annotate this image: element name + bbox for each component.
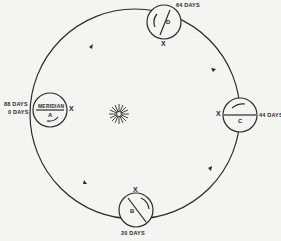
marker-x-d: X	[161, 40, 166, 47]
label-c-days: 44 DAYS	[259, 112, 281, 118]
sun-icon	[109, 104, 129, 124]
label-d-days: 64 DAYS	[176, 2, 200, 8]
marker-x-c: X	[216, 110, 221, 117]
letter-c: C	[238, 118, 243, 124]
marker-x-b: X	[133, 186, 138, 193]
letter-a: A	[48, 112, 53, 118]
letter-d: D	[166, 19, 171, 25]
marker-x-a: X	[69, 105, 74, 112]
label-a-days-end: 88 DAYS	[4, 101, 28, 107]
label-b-days: 20 DAYS	[121, 230, 145, 236]
label-a-days-start: 0 DAYS	[8, 109, 29, 115]
planet-position-d	[147, 5, 181, 39]
letter-b: B	[130, 208, 135, 214]
direction-arrows	[83, 44, 216, 184]
meridian-label: MERIDIAN	[38, 103, 64, 109]
planet-position-b	[119, 193, 153, 227]
